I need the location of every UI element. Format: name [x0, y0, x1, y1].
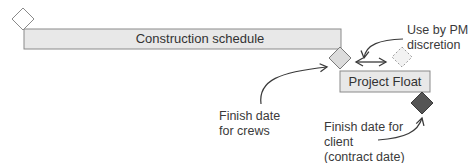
crews-annotation-line-1: Finish date	[219, 109, 280, 124]
crews-finish-annotation: Finish date for crews	[219, 109, 280, 139]
finish-for-client-milestone-icon	[411, 92, 433, 114]
construction-schedule-label: Construction schedule	[120, 31, 280, 46]
crews-leader-arrow-icon	[261, 67, 327, 104]
client-annotation-line-1: Finish date for	[324, 120, 405, 135]
crews-annotation-line-2: for crews	[219, 124, 280, 139]
client-finish-annotation: Finish date for client (contract date)	[324, 120, 405, 163]
pm-discretion-annotation: Use by PM discretion	[407, 23, 468, 53]
finish-for-crews-milestone-icon	[329, 47, 351, 69]
pm-annotation-line-1: Use by PM	[407, 23, 468, 38]
client-annotation-line-2: client	[324, 135, 405, 150]
client-annotation-line-3: (contract date)	[324, 150, 405, 163]
project-float-label: Project Float	[340, 74, 430, 89]
start-milestone-icon	[12, 8, 34, 30]
pm-annotation-line-2: discretion	[407, 38, 468, 53]
